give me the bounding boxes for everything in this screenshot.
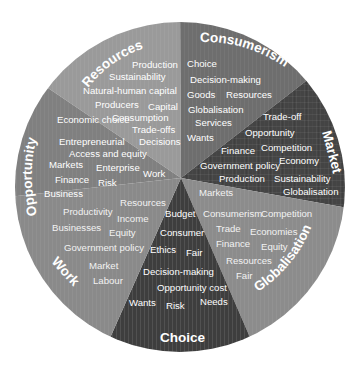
term: Production: [219, 173, 265, 184]
term: Economic choice: [57, 114, 130, 125]
term: Needs: [200, 296, 228, 307]
term: Government policy: [200, 160, 280, 171]
term: Income: [117, 213, 148, 224]
term: Choice: [187, 58, 217, 69]
term: Sustainability: [274, 173, 331, 184]
term: Natural-human capital: [83, 85, 177, 96]
term: Access and equity: [69, 148, 147, 159]
term: Services: [195, 117, 232, 128]
term: Equity: [261, 241, 288, 252]
term: Trade-offs: [132, 124, 175, 135]
term: Markets: [49, 159, 83, 170]
term: Ethics: [150, 244, 176, 255]
term: Finance: [221, 145, 255, 156]
term: Entrepreneurial: [59, 136, 125, 147]
term: Sustainability: [109, 71, 166, 82]
term: Budget: [165, 208, 196, 219]
term: Consumer: [160, 227, 205, 238]
term: Wants: [187, 132, 214, 143]
term: Finance: [216, 238, 250, 249]
term: Resources: [226, 255, 272, 266]
term: Fair: [236, 270, 253, 281]
term: Finance: [55, 174, 89, 185]
term: Businesses: [52, 222, 101, 233]
term: Globalisation: [283, 186, 338, 197]
term: Market: [89, 260, 119, 271]
term: Risk: [166, 300, 185, 311]
term: Equity: [109, 227, 136, 238]
term: Risk: [98, 177, 117, 188]
term: Productivity: [63, 206, 113, 217]
term: Goods: [187, 89, 215, 100]
term: Competition: [261, 142, 312, 153]
term: Opportunity cost: [157, 282, 227, 293]
term: Government policy: [64, 242, 144, 253]
term: Economy: [279, 155, 319, 166]
term: Competition: [261, 208, 312, 219]
term: Trade-off: [263, 111, 302, 122]
term: Business: [44, 188, 83, 199]
term: Work: [143, 168, 165, 179]
term: Production: [132, 59, 178, 70]
term: Resources: [120, 197, 166, 208]
term: Wants: [129, 297, 156, 308]
term: Markets: [199, 187, 233, 198]
term: Consumerism: [203, 208, 262, 219]
term: Resources: [226, 89, 272, 100]
term: Capital: [148, 101, 178, 112]
term: Globalisation: [188, 104, 243, 115]
term: Opportunity: [245, 127, 295, 138]
concept-wheel: Resources Consumerism Market Globalisati…: [0, 0, 359, 365]
term: Fair: [186, 247, 203, 258]
term: Economies: [250, 226, 298, 237]
term: Trade: [216, 223, 241, 234]
term: Enterprise: [96, 162, 140, 173]
term: Decision-making: [143, 266, 214, 277]
term: Decision-making: [190, 74, 261, 85]
term: Labour: [93, 275, 124, 286]
segment-title-choice: Choice: [160, 330, 206, 345]
term: Decisions: [139, 136, 181, 147]
term: Producers: [95, 99, 139, 110]
